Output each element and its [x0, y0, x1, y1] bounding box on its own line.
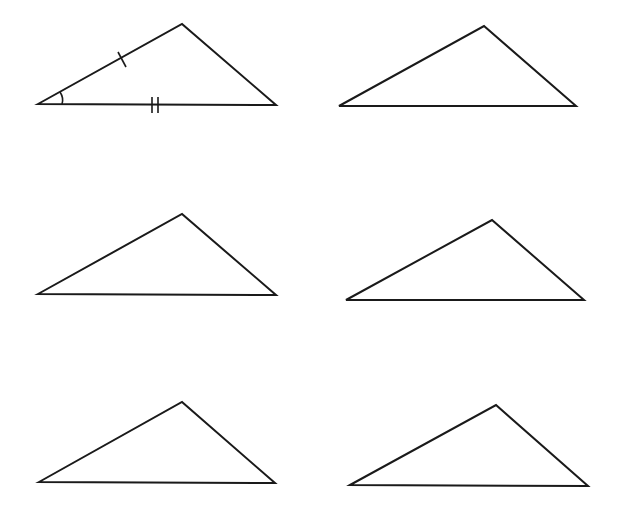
triangle-2-outline — [339, 26, 576, 106]
triangle-2 — [339, 26, 576, 106]
triangle-6-outline — [350, 405, 588, 486]
triangle-3-outline — [38, 214, 276, 295]
triangle-6 — [350, 405, 588, 486]
triangle-4 — [346, 220, 584, 300]
triangle-1 — [38, 24, 276, 113]
triangle-5 — [39, 402, 275, 483]
triangle-3 — [38, 214, 276, 295]
triangle-4-outline — [346, 220, 584, 300]
triangle-1-outline — [38, 24, 276, 105]
angle-arc-mark — [60, 92, 63, 104]
triangle-figure — [0, 0, 620, 505]
triangle-5-outline — [39, 402, 275, 483]
